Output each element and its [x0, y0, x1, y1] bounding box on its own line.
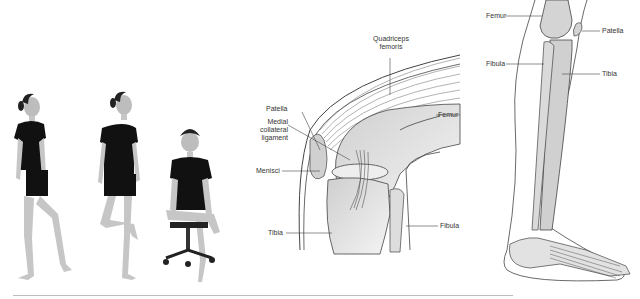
figure-standing-knee-bent — [98, 92, 140, 280]
bottom-rule-divider — [13, 295, 513, 296]
label-tibia: Tibia — [602, 70, 617, 78]
leg-skeleton-illustration — [470, 0, 640, 299]
label-quadriceps-femoris: Quadriceps femoris — [366, 35, 416, 51]
figure-seated-on-chair — [163, 129, 220, 282]
exercise-photos-panel — [0, 80, 240, 290]
label-medial-collateral-ligament: Medial collateral ligament — [240, 118, 288, 142]
label-fibula: Fibula — [486, 60, 505, 68]
label-quadriceps-line1: Quadriceps — [366, 35, 416, 43]
knee-anatomy-illustration — [240, 0, 470, 299]
label-fibula: Fibula — [440, 222, 459, 230]
knee-anatomy-panel: Quadriceps femoris Patella Medial collat… — [240, 0, 470, 299]
label-patella: Patella — [266, 105, 287, 113]
label-quadriceps-line2: femoris — [366, 43, 416, 51]
leg-skeleton-panel: Femur Patella Fibula Tibia — [470, 0, 640, 299]
label-femur: Femur — [486, 12, 506, 20]
label-menisci: Menisci — [256, 167, 280, 175]
label-femur: Femur — [438, 111, 458, 119]
label-medial-line2: collateral — [240, 126, 288, 134]
exercise-figures-illustration — [0, 80, 240, 290]
label-tibia: Tibia — [268, 229, 283, 237]
label-patella: Patella — [602, 27, 623, 35]
label-medial-line3: ligament — [240, 134, 288, 142]
label-medial-line1: Medial — [240, 118, 288, 126]
figure-standing-leg-forward — [14, 94, 72, 280]
